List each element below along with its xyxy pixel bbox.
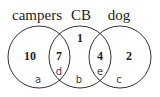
region-letter-e: e [97, 66, 103, 77]
region-letter-a: a [35, 74, 41, 85]
venn-diagram: campers CB dog 10 7 1 4 2 a b c d e [0, 0, 160, 97]
region-letter-c: c [116, 74, 122, 85]
campers-cb-value: 7 [56, 49, 62, 63]
campers-only-value: 10 [24, 49, 36, 63]
region-letter-d: d [56, 66, 62, 77]
campers-label: campers [12, 7, 62, 23]
cb-label: CB [71, 7, 91, 23]
dog-only-value: 2 [126, 49, 132, 63]
cb-only-value: 1 [77, 31, 83, 45]
region-letter-b: b [76, 74, 82, 85]
cb-dog-value: 4 [97, 49, 103, 63]
dog-label: dog [108, 7, 131, 23]
